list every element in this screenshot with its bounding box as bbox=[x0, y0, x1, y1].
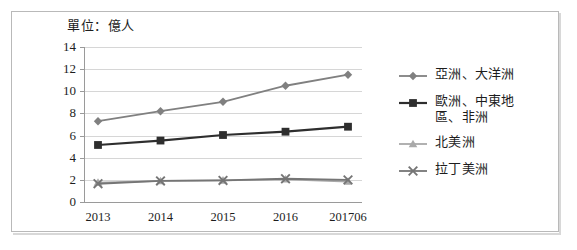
chart-figure: 單位：億人 14121086420 2013201420152016201706… bbox=[0, 0, 577, 250]
y-axis-tick-label: 4 bbox=[44, 150, 76, 166]
series-1 bbox=[94, 123, 352, 149]
x-axis-tick-label: 2015 bbox=[211, 210, 236, 225]
data-point-marker-square bbox=[157, 137, 165, 145]
legend-label: 北美洲 bbox=[435, 134, 475, 150]
frame-shadow-bottom bbox=[13, 233, 561, 235]
y-axis-tick-label: 10 bbox=[44, 83, 76, 99]
legend-marker-square-icon bbox=[398, 95, 428, 111]
y-axis-tick-label: 14 bbox=[44, 39, 76, 55]
data-point-marker-diamond bbox=[219, 98, 227, 106]
data-point-marker-diamond bbox=[281, 82, 289, 90]
legend-marker-triangle-icon bbox=[398, 136, 428, 152]
data-point-marker-square bbox=[409, 99, 417, 107]
y-axis-tick-label: 12 bbox=[44, 61, 76, 77]
legend-label: 亞洲、大洋洲 bbox=[435, 66, 515, 82]
legend-label: 拉丁美洲 bbox=[435, 161, 488, 177]
data-point-marker-square bbox=[282, 128, 290, 136]
data-point-marker-diamond bbox=[409, 72, 417, 80]
legend-item-2[interactable]: 北美洲 bbox=[398, 134, 548, 152]
chart-series-layer bbox=[84, 47, 362, 203]
frame-shadow-right bbox=[559, 13, 561, 234]
chart-unit-label: 單位：億人 bbox=[67, 15, 135, 34]
data-point-marker-diamond bbox=[156, 107, 164, 115]
x-axis-tick-label: 201706 bbox=[329, 210, 367, 225]
legend-item-0[interactable]: 亞洲、大洋洲 bbox=[398, 66, 548, 84]
data-point-marker-diamond bbox=[344, 70, 352, 78]
data-point-marker-square bbox=[344, 123, 352, 131]
series-0 bbox=[94, 70, 352, 125]
y-axis-tick-label: 8 bbox=[44, 105, 76, 121]
x-axis-tick-label: 2014 bbox=[148, 210, 173, 225]
x-axis-tick-label: 2016 bbox=[273, 210, 298, 225]
y-axis-tick-label: 6 bbox=[44, 128, 76, 144]
y-axis-labels: 14121086420 bbox=[44, 47, 76, 202]
legend-item-1[interactable]: 歐洲、中東地 區、非洲 bbox=[398, 93, 548, 125]
x-axis-tick-label: 2013 bbox=[86, 210, 111, 225]
legend-item-3[interactable]: 拉丁美洲 bbox=[398, 161, 548, 179]
legend-label: 歐洲、中東地 區、非洲 bbox=[435, 93, 515, 125]
chart-legend: 亞洲、大洋洲歐洲、中東地 區、非洲北美洲拉丁美洲 bbox=[398, 66, 548, 188]
legend-marker-x-icon bbox=[398, 163, 428, 179]
data-point-marker-square bbox=[94, 141, 102, 149]
y-axis-tick-label: 2 bbox=[44, 172, 76, 188]
legend-marker-diamond-icon bbox=[398, 68, 428, 84]
y-axis-tick-label: 0 bbox=[44, 194, 76, 210]
data-point-marker-diamond bbox=[94, 117, 102, 125]
data-point-marker-square bbox=[219, 131, 227, 139]
